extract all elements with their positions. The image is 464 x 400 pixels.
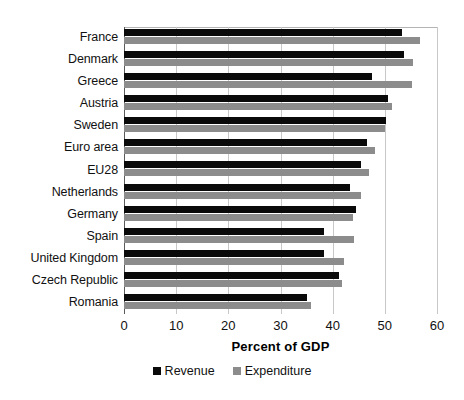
bar-revenue-euro-area [124, 139, 367, 146]
category-label-austria: Austria [0, 97, 118, 110]
bar-revenue-sweden [124, 117, 386, 124]
bar-expenditure-spain [124, 236, 354, 243]
category-label-sweden: Sweden [0, 119, 118, 132]
bar-expenditure-romania [124, 302, 311, 309]
category-label-denmark: Denmark [0, 53, 118, 66]
bar-expenditure-czech-republic [124, 280, 342, 287]
x-tick-label-40: 40 [325, 318, 339, 334]
bars-layer [124, 27, 437, 314]
bar-group [124, 204, 437, 226]
bar-expenditure-denmark [124, 59, 413, 66]
category-axis: FranceDenmarkGreeceAustriaSwedenEuro are… [0, 27, 118, 314]
bar-revenue-netherlands [124, 184, 350, 191]
bar-revenue-germany [124, 206, 356, 213]
bar-expenditure-france [124, 37, 420, 44]
x-axis-title: Percent of GDP [124, 339, 437, 354]
bar-group [124, 270, 437, 292]
bar-revenue-eu28 [124, 161, 361, 168]
chart-legend: RevenueExpenditure [0, 364, 464, 378]
bar-revenue-greece [124, 73, 372, 80]
plot-area [124, 27, 437, 314]
x-tick-label-30: 30 [273, 318, 287, 334]
bar-group [124, 71, 437, 93]
x-tick-label-20: 20 [221, 318, 235, 334]
legend-swatch-icon [153, 367, 161, 375]
bar-group [124, 93, 437, 115]
legend-label: Expenditure [245, 364, 312, 378]
bar-group [124, 27, 437, 49]
category-label-germany: Germany [0, 208, 118, 221]
bar-expenditure-united-kingdom [124, 258, 344, 265]
bar-group [124, 292, 437, 314]
bar-expenditure-eu28 [124, 169, 369, 176]
bar-group [124, 182, 437, 204]
bar-chart: FranceDenmarkGreeceAustriaSwedenEuro are… [0, 0, 464, 400]
legend-swatch-icon [233, 367, 241, 375]
category-label-spain: Spain [0, 230, 118, 243]
bar-expenditure-austria [124, 103, 392, 110]
bar-group [124, 49, 437, 71]
bar-expenditure-germany [124, 214, 353, 221]
bar-revenue-france [124, 29, 402, 36]
x-tick-label-60: 60 [430, 318, 444, 334]
bar-expenditure-sweden [124, 125, 385, 132]
category-label-czech-republic: Czech Republic [0, 274, 118, 287]
category-label-greece: Greece [0, 75, 118, 88]
x-tick-label-0: 0 [120, 318, 127, 334]
x-tick-label-10: 10 [169, 318, 183, 334]
bar-revenue-austria [124, 95, 388, 102]
category-label-united-kingdom: United Kingdom [0, 252, 118, 265]
legend-item-expenditure: Expenditure [233, 364, 312, 378]
category-label-france: France [0, 31, 118, 44]
bar-group [124, 137, 437, 159]
x-tick-label-50: 50 [378, 318, 392, 334]
category-label-eu28: EU28 [0, 164, 118, 177]
bar-group [124, 248, 437, 270]
bar-group [124, 159, 437, 181]
bar-group [124, 115, 437, 137]
bar-revenue-romania [124, 294, 307, 301]
category-label-romania: Romania [0, 296, 118, 309]
legend-item-revenue: Revenue [153, 364, 215, 378]
category-label-euro-area: Euro area [0, 141, 118, 154]
legend-label: Revenue [165, 364, 215, 378]
x-axis-ticks: 0102030405060 [124, 318, 437, 336]
bar-expenditure-greece [124, 81, 412, 88]
category-label-netherlands: Netherlands [0, 186, 118, 199]
bar-expenditure-netherlands [124, 192, 361, 199]
bar-revenue-czech-republic [124, 272, 339, 279]
bar-group [124, 226, 437, 248]
gridline-60 [437, 27, 438, 314]
bar-expenditure-euro-area [124, 147, 375, 154]
bar-revenue-spain [124, 228, 324, 235]
bar-revenue-united-kingdom [124, 250, 324, 257]
bar-revenue-denmark [124, 51, 404, 58]
